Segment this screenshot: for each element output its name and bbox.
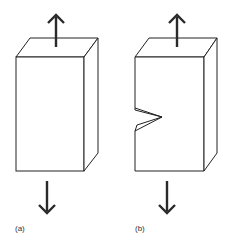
- panel-b: [135, 15, 217, 213]
- block-a: [16, 38, 98, 171]
- diagram-canvas: [0, 0, 233, 247]
- block-b-notched: [135, 38, 217, 171]
- panel-a: [16, 15, 98, 213]
- arrow-down-icon: [159, 181, 175, 213]
- panel-label-a: (a): [15, 224, 25, 233]
- arrow-down-icon: [39, 181, 55, 213]
- panel-label-b: (b): [135, 224, 145, 233]
